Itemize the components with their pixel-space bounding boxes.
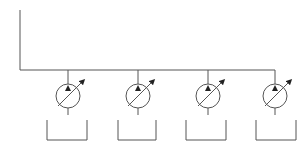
tank-symbol xyxy=(256,120,296,140)
flow-triangle-icon xyxy=(65,85,71,91)
tank-group xyxy=(47,120,296,140)
flow-triangle-icon xyxy=(205,85,211,91)
pump-symbol xyxy=(56,70,83,115)
pump-symbol xyxy=(263,70,290,115)
pump-group xyxy=(56,70,290,115)
pump-symbol xyxy=(196,70,223,115)
pump-symbol xyxy=(126,70,153,115)
flow-triangle-icon xyxy=(135,85,141,91)
flow-triangle-icon xyxy=(272,85,278,91)
hydraulic-diagram xyxy=(0,0,307,149)
tank-symbol xyxy=(47,120,87,140)
tank-symbol xyxy=(186,120,226,140)
tank-symbol xyxy=(118,120,156,140)
